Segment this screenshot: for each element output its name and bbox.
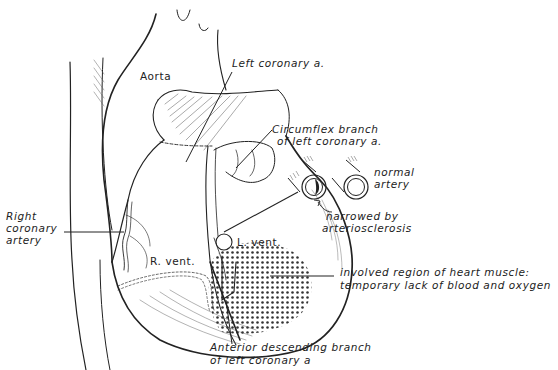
label-normal-1: normal bbox=[374, 166, 415, 178]
heart-illustration bbox=[0, 0, 558, 370]
lvent-marker bbox=[216, 234, 232, 250]
label-right-coronary-1: Right bbox=[6, 210, 37, 222]
label-circumflex-2: of left coronary a. bbox=[277, 135, 382, 147]
heart-diagram: Aorta Left coronary a. Circumflex branch… bbox=[0, 0, 558, 370]
label-anterior-2: of left coronary a bbox=[210, 354, 311, 366]
label-involved-1: involved region of heart muscle: bbox=[340, 266, 530, 278]
label-r-vent: R. vent. bbox=[150, 255, 195, 267]
label-involved-2: temporary lack of blood and oxygen bbox=[340, 279, 551, 291]
label-aorta: Aorta bbox=[140, 70, 171, 82]
label-l-vent: L. vent. bbox=[237, 236, 281, 248]
label-right-coronary-2: coronary bbox=[6, 222, 57, 234]
label-narrowed-2: arteriosclerosis bbox=[322, 222, 412, 234]
label-left-coronary: Left coronary a. bbox=[232, 57, 325, 69]
artery-insets bbox=[288, 156, 368, 212]
label-narrowed-1: narrowed by bbox=[326, 210, 399, 222]
label-circumflex-1: Circumflex branch bbox=[272, 123, 379, 135]
label-normal-2: artery bbox=[374, 178, 409, 190]
label-anterior-1: Anterior descending branch bbox=[210, 341, 372, 353]
label-right-coronary-3: artery bbox=[6, 234, 41, 246]
